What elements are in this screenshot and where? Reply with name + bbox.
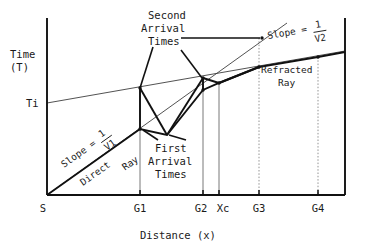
diagram-canvas: Time (T) Ti Distance (x) S G1 G2 Xc G3 G… bbox=[0, 0, 368, 244]
second-arrival-g2-riser bbox=[167, 78, 203, 135]
x-tick-label-xc: Xc bbox=[217, 202, 230, 214]
marker-g4 bbox=[316, 55, 319, 58]
y-axis-label-line2: (T) bbox=[10, 61, 29, 73]
x-tick-label-g1: G1 bbox=[134, 202, 147, 214]
x-tick-label-g4: G4 bbox=[312, 202, 325, 214]
x-tick-label-s: S bbox=[40, 202, 46, 214]
refracted-slope-numerator: 1 bbox=[314, 18, 322, 30]
refracted-slope-denominator: V2 bbox=[314, 31, 327, 44]
marker-g2-first bbox=[201, 88, 204, 91]
leader-second-arrival-g2 bbox=[181, 50, 202, 78]
leader-second-arrival-g1 bbox=[140, 47, 153, 88]
marker-crossover bbox=[217, 81, 220, 84]
first-arrival-callout: First Arrival Times bbox=[148, 142, 192, 180]
direct-slope-prefix: Slope = bbox=[59, 137, 98, 169]
leader-first-arrival-right bbox=[169, 135, 186, 140]
x-axis-label: Distance (x) bbox=[140, 229, 216, 241]
x-tick-label-g2: G2 bbox=[195, 202, 208, 214]
second-arrival-callout: Second Arrival Times bbox=[141, 9, 186, 47]
direct-slope-numerator: 1 bbox=[96, 127, 107, 139]
marker-g1-first bbox=[138, 127, 141, 130]
refracted-ray-line1: Refracted bbox=[261, 64, 312, 75]
direct-ray-line2: Ray bbox=[120, 153, 141, 172]
first-arrival-line3: Times bbox=[155, 168, 187, 180]
refracted-ray-line2: Ray bbox=[278, 77, 295, 88]
second-arrival-line3: Times bbox=[148, 35, 180, 47]
refracted-slope-prefix: Slope = bbox=[267, 23, 309, 41]
first-arrival-line1: First bbox=[155, 142, 187, 154]
second-arrival-crossover-link bbox=[203, 78, 219, 83]
second-arrival-segments bbox=[140, 67, 259, 135]
x-tick-label-g3: G3 bbox=[253, 202, 266, 214]
first-arrival-line2: Arrival bbox=[148, 155, 192, 167]
marker-second-arrival-leader-end bbox=[260, 36, 263, 39]
ti-intercept-label: Ti bbox=[26, 97, 39, 109]
refracted-ray-name-annotation: Refracted Ray bbox=[261, 64, 312, 88]
direct-slope-denominator: V1 bbox=[102, 137, 118, 153]
direct-ray-line1: Direct bbox=[78, 159, 112, 188]
callout-leaders bbox=[140, 38, 260, 140]
refracted-ray-line bbox=[47, 51, 345, 103]
travel-time-diagram: Time (T) Ti Distance (x) S G1 G2 Xc G3 G… bbox=[0, 0, 368, 244]
second-arrival-line2: Arrival bbox=[141, 22, 185, 34]
second-arrival-line1: Second bbox=[148, 9, 186, 21]
refracted-ray-slope-annotation: Slope = 1 V2 bbox=[266, 17, 328, 51]
y-axis-label-line1: Time bbox=[10, 48, 35, 60]
